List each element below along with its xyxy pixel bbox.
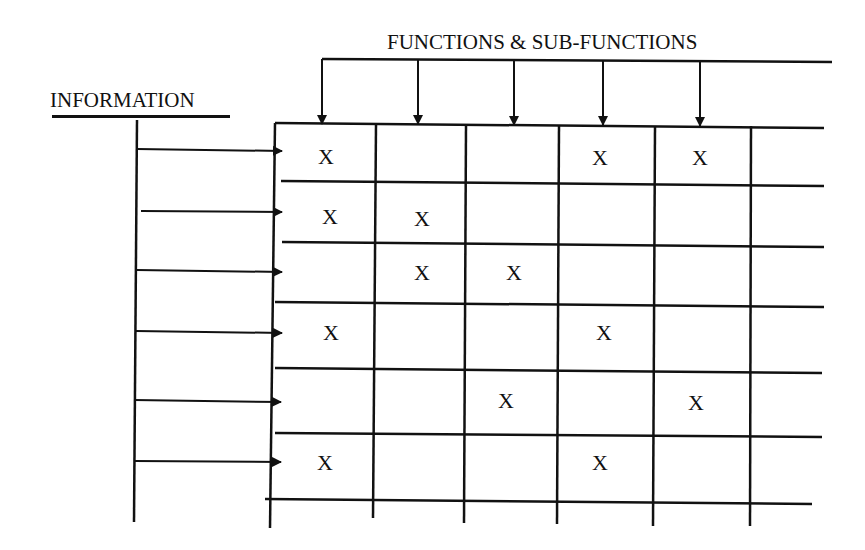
matrix-cell-r4-c1: X — [311, 320, 351, 346]
matrix-cell-r4-c4: X — [584, 320, 624, 346]
matrix-cell-r2-c2: X — [402, 206, 442, 232]
matrix-cell-r5-c3: X — [486, 388, 526, 414]
information-arrow-2 — [141, 211, 282, 212]
matrix-cell-r1-c4: X — [580, 145, 620, 171]
information-arrow-5 — [134, 400, 281, 402]
information-arrow-3 — [137, 270, 282, 272]
information-title: INFORMATION — [50, 88, 195, 113]
information-arrow-1 — [137, 149, 282, 151]
functions-title: FUNCTIONS & SUB-FUNCTIONS — [387, 30, 697, 55]
matrix-cell-r1-c5: X — [680, 145, 720, 171]
matrix-cell-r6-c1: X — [305, 450, 345, 476]
information-trunk — [134, 120, 282, 522]
information-title-underline — [52, 115, 230, 118]
information-arrow-4 — [136, 331, 282, 333]
matrix-cell-r3-c3: X — [494, 260, 534, 286]
information-arrow-6 — [134, 461, 281, 462]
matrix-cell-r5-c5: X — [676, 390, 716, 416]
information-function-matrix-diagram: FUNCTIONS & SUB-FUNCTIONS INFORMATION X … — [0, 0, 865, 550]
matrix-cell-r2-c1: X — [310, 204, 350, 230]
matrix-cell-r1-c1: X — [306, 144, 346, 170]
functions-bracket — [322, 59, 832, 126]
matrix-cell-r3-c2: X — [402, 260, 442, 286]
matrix-cell-r6-c4: X — [580, 450, 620, 476]
